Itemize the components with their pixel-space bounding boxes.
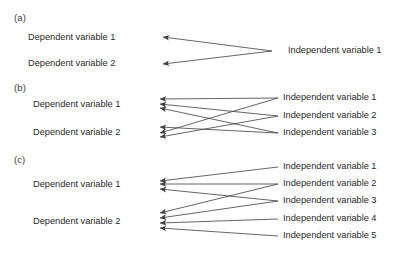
panel-c-dependent-variable-1: Dependent variable 1 <box>33 180 120 189</box>
causal-arrow <box>160 104 278 116</box>
panel-a-independent-variable-1: Independent variable 1 <box>288 46 382 55</box>
causal-arrow <box>160 108 278 133</box>
path-diagram-figure: (a) Dependent variable 1 Dependent varia… <box>0 0 398 259</box>
panel-label-a: (a) <box>14 12 26 23</box>
panel-b-dependent-variable-2: Dependent variable 2 <box>33 128 120 137</box>
causal-arrow <box>163 37 272 51</box>
panel-label-b: (b) <box>14 82 26 93</box>
causal-arrow <box>163 51 272 64</box>
panel-b-independent-variable-3: Independent variable 3 <box>283 128 377 137</box>
causal-arrow <box>160 189 278 201</box>
causal-arrow <box>160 167 278 181</box>
panel-c-independent-variable-2: Independent variable 2 <box>283 179 377 188</box>
panel-b-independent-variable-1: Independent variable 1 <box>283 93 377 102</box>
causal-arrow <box>160 201 278 218</box>
causal-arrow <box>160 116 278 137</box>
panel-c-dependent-variable-2: Dependent variable 2 <box>33 217 120 226</box>
causal-arrow <box>160 219 278 223</box>
causal-arrow <box>160 228 278 236</box>
panel-b-dependent-variable-1: Dependent variable 1 <box>33 100 120 109</box>
panel-c-independent-variable-4: Independent variable 4 <box>283 214 377 223</box>
panel-a-dependent-variable-1: Dependent variable 1 <box>28 33 115 42</box>
panel-b-independent-variable-2: Independent variable 2 <box>283 111 377 120</box>
panel-label-c: (c) <box>14 154 25 165</box>
panel-c-independent-variable-3: Independent variable 3 <box>283 196 377 205</box>
panel-a-dependent-variable-2: Dependent variable 2 <box>28 59 115 68</box>
panel-c-independent-variable-5: Independent variable 5 <box>283 231 377 240</box>
causal-arrow <box>160 98 278 99</box>
causal-arrow <box>160 127 278 133</box>
causal-arrow <box>160 184 278 213</box>
panel-c-independent-variable-1: Independent variable 1 <box>283 162 377 171</box>
